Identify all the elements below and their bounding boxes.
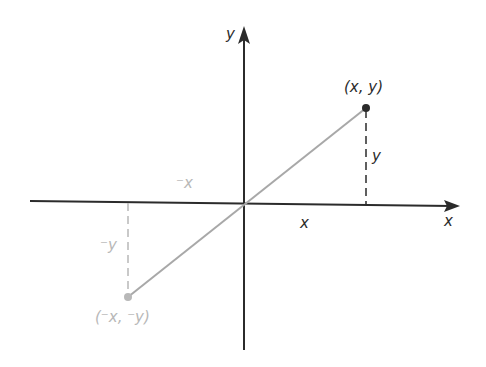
point-positive	[362, 104, 370, 112]
x-axis	[30, 201, 452, 206]
point-positive-label: (x, y)	[344, 78, 383, 96]
segment-label-pos-y: y	[371, 147, 382, 165]
segment-label-neg-y: ⁻y	[100, 236, 118, 254]
segment-label-neg-x: ⁻x	[176, 174, 193, 192]
coordinate-diagram: y x (x, y) y x ⁻x ⁻y (⁻x, ⁻y)	[0, 0, 486, 367]
x-axis-label: x	[443, 212, 453, 230]
point-negative	[124, 293, 132, 301]
point-negative-label: (⁻x, ⁻y)	[95, 308, 150, 326]
segment-label-pos-x: x	[299, 214, 309, 232]
y-axis-label: y	[225, 25, 236, 43]
